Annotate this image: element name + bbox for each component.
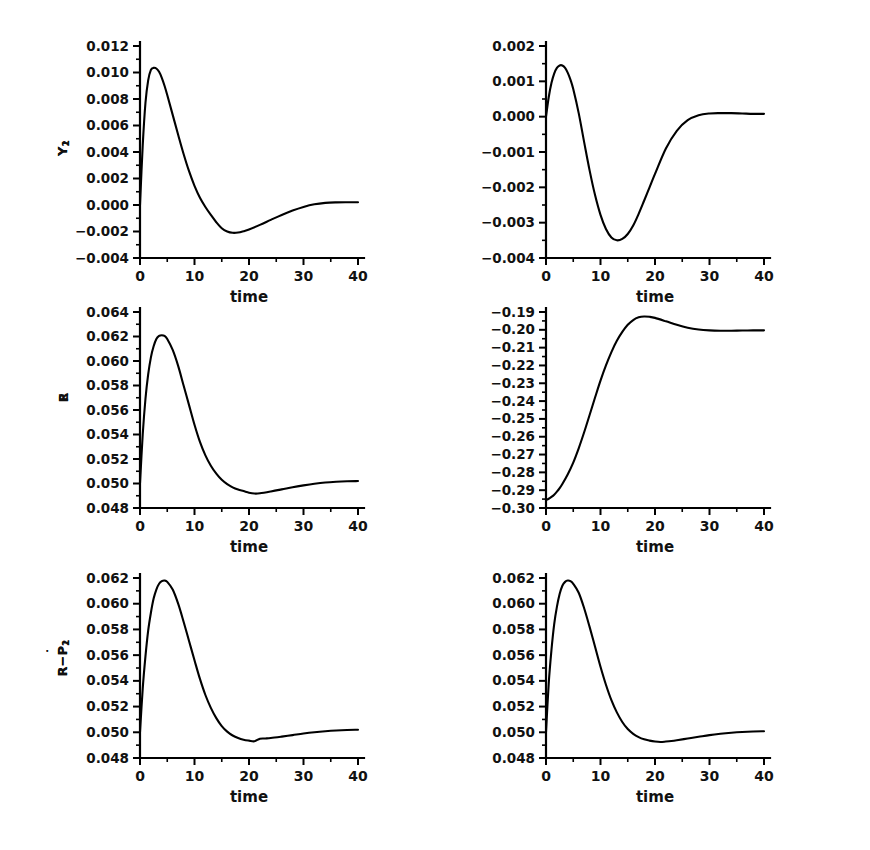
axis-spines <box>140 308 364 508</box>
y-tick-label: 0.054 <box>86 672 129 688</box>
x-tick-label: 30 <box>700 768 720 784</box>
panel-e-y-axis-label: E <box>56 363 71 433</box>
x-axis-ticks: 010203040 <box>541 258 774 284</box>
x-tick-label: 30 <box>700 268 720 284</box>
y-tick-label: 0.054 <box>86 426 129 442</box>
y-tick-label: −0.24 <box>490 393 535 409</box>
x-tick-label: 40 <box>348 268 368 284</box>
panel-y1: −0.004−0.0020.0000.0020.0040.0060.0080.0… <box>0 0 870 850</box>
data-line <box>140 68 358 233</box>
axis-spines <box>546 574 770 758</box>
panel-y1-x-axis-label: time <box>199 288 299 306</box>
y-tick-label: 0.056 <box>492 647 535 663</box>
y-tick-label: 0.048 <box>86 750 129 766</box>
x-tick-label: 30 <box>294 518 314 534</box>
y-tick-label: 0.008 <box>86 91 129 107</box>
y-tick-label: 0.056 <box>86 402 129 418</box>
x-tick-label: 0 <box>135 518 145 534</box>
axis-spines <box>546 42 770 258</box>
panel-r-minus-pdot1-x-axis-label: time <box>199 788 299 806</box>
panel-r-minus-pdot1-svg: 0.0480.0500.0520.0540.0560.0580.0600.062… <box>44 550 382 792</box>
y-tick-label: −0.30 <box>490 500 535 516</box>
y-tick-label: −0.004 <box>75 250 129 266</box>
panel-r-minus-pdot2: 0.0480.0500.0520.0540.0560.0580.0600.062… <box>0 0 870 850</box>
panel-y2: −0.004−0.003−0.002−0.0010.0000.0010.0020… <box>0 0 870 850</box>
y-tick-label: −0.25 <box>490 410 535 426</box>
x-axis-ticks: 010203040 <box>135 508 368 534</box>
x-tick-label: 10 <box>591 768 611 784</box>
x-tick-label: 20 <box>239 268 259 284</box>
x-tick-label: 30 <box>700 518 720 534</box>
x-tick-label: 20 <box>645 268 665 284</box>
panel-y1-y-axis-label: Y1 <box>55 113 71 183</box>
y-tick-label: −0.28 <box>490 464 535 480</box>
x-tick-label: 0 <box>135 268 145 284</box>
y-tick-label: 0.012 <box>86 38 129 54</box>
y-axis-ticks: −0.004−0.003−0.002−0.0010.0000.0010.002 <box>481 38 546 266</box>
x-tick-label: 40 <box>754 518 774 534</box>
panel-y2-svg: −0.004−0.003−0.002−0.0010.0000.0010.0020… <box>450 18 788 292</box>
x-tick-label: 40 <box>754 768 774 784</box>
y-tick-label: 0.056 <box>86 647 129 663</box>
panel-r-minus-pdot1-y-axis-label: R−P˙1 <box>55 623 71 693</box>
x-tick-label: 0 <box>541 768 551 784</box>
panel-r: 0.0480.0500.0520.0540.0560.0580.0600.062… <box>0 0 870 850</box>
x-tick-label: 10 <box>185 768 205 784</box>
y-tick-label: −0.003 <box>481 214 535 230</box>
y-axis-ticks: 0.0480.0500.0520.0540.0560.0580.0600.062 <box>492 570 546 766</box>
panel-r-minus-pdot2-x-axis-label: time <box>605 788 705 806</box>
y-tick-label: 0.062 <box>86 570 129 586</box>
panel-y2-x-axis-label: time <box>605 288 705 306</box>
x-tick-label: 10 <box>185 518 205 534</box>
y-tick-label: 0.062 <box>86 328 129 344</box>
x-tick-label: 0 <box>541 268 551 284</box>
x-tick-label: 20 <box>239 518 259 534</box>
x-tick-label: 0 <box>135 768 145 784</box>
y-tick-label: −0.22 <box>490 357 535 373</box>
panel-r-svg: 0.0480.0500.0520.0540.0560.0580.0600.062… <box>44 284 382 542</box>
y-tick-label: 0.050 <box>86 724 129 740</box>
y-axis-ticks: 0.0480.0500.0520.0540.0560.0580.0600.062 <box>86 570 140 766</box>
panel-y1-svg: −0.004−0.0020.0000.0020.0040.0060.0080.0… <box>44 18 382 292</box>
data-line <box>546 316 764 500</box>
panel-e-svg: −0.30−0.29−0.28−0.27−0.26−0.25−0.24−0.23… <box>450 284 788 542</box>
y-tick-label: −0.19 <box>490 304 535 320</box>
x-tick-label: 40 <box>754 268 774 284</box>
data-line <box>546 581 764 742</box>
panel-r-minus-pdot2-y-axis-label: R−P˙2 <box>55 623 71 693</box>
panel-y2-y-axis-label: Y2 <box>55 113 71 183</box>
y-tick-label: 0.052 <box>492 698 535 714</box>
x-tick-label: 20 <box>645 768 665 784</box>
y-tick-label: −0.002 <box>75 223 129 239</box>
data-line <box>546 65 764 240</box>
y-tick-label: −0.21 <box>490 339 535 355</box>
y-tick-label: 0.060 <box>492 595 535 611</box>
y-tick-label: 0.002 <box>492 38 535 54</box>
y-tick-label: 0.050 <box>86 475 129 491</box>
panel-r-minus-pdot1: 0.0480.0500.0520.0540.0560.0580.0600.062… <box>0 0 870 850</box>
data-line <box>140 581 358 742</box>
y-tick-label: 0.048 <box>492 750 535 766</box>
y-tick-label: −0.002 <box>481 179 535 195</box>
panel-r-y-axis-label: R <box>56 363 71 433</box>
y-tick-label: 0.050 <box>492 724 535 740</box>
y-tick-label: 0.010 <box>86 64 129 80</box>
x-axis-ticks: 010203040 <box>135 258 368 284</box>
figure-canvas: −0.004−0.0020.0000.0020.0040.0060.0080.0… <box>0 0 870 850</box>
panel-e: −0.30−0.29−0.28−0.27−0.26−0.25−0.24−0.23… <box>0 0 870 850</box>
x-tick-label: 40 <box>348 518 368 534</box>
x-axis-ticks: 010203040 <box>135 758 368 784</box>
data-line <box>140 335 358 493</box>
y-tick-label: −0.29 <box>490 482 535 498</box>
y-tick-label: 0.002 <box>86 170 129 186</box>
axis-spines <box>140 574 364 758</box>
y-tick-label: 0.000 <box>86 197 129 213</box>
y-tick-label: 0.054 <box>492 672 535 688</box>
y-tick-label: 0.058 <box>86 621 129 637</box>
y-tick-label: −0.26 <box>490 428 535 444</box>
axis-spines <box>546 308 770 508</box>
x-axis-ticks: 010203040 <box>541 758 774 784</box>
x-tick-label: 0 <box>541 518 551 534</box>
y-tick-label: −0.23 <box>490 375 535 391</box>
x-tick-label: 10 <box>185 268 205 284</box>
